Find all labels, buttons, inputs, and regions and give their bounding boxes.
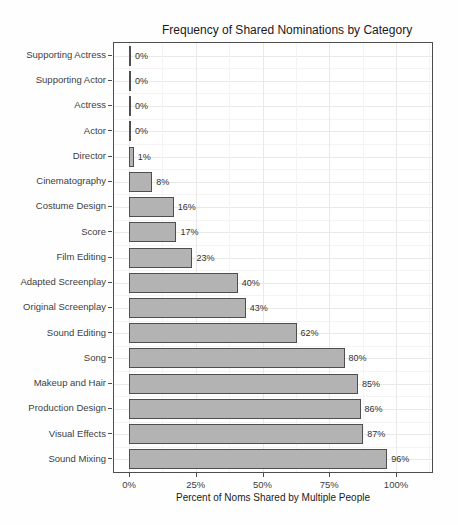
y-tick (108, 357, 112, 358)
y-tick (108, 80, 112, 81)
category-label: Sound Mixing (48, 446, 106, 471)
x-tick (196, 473, 197, 477)
category-label: Sound Editing (47, 320, 106, 345)
bar (129, 298, 246, 318)
category-label: Makeup and Hair (34, 370, 106, 395)
category-label: Costume Design (36, 193, 106, 218)
bar-value-label: 0% (135, 46, 148, 66)
bar (129, 323, 297, 343)
x-tick (129, 473, 130, 477)
bar (129, 96, 131, 116)
bar (129, 374, 358, 394)
chart-title: Frequency of Shared Nominations by Categ… (162, 23, 412, 37)
category-label: Supporting Actress (26, 42, 106, 67)
category-label: Score (81, 219, 106, 244)
x-tick (263, 473, 264, 477)
bar (129, 121, 131, 141)
bar (129, 424, 363, 444)
bar-value-label: 17% (180, 222, 198, 242)
y-tick (108, 383, 112, 384)
chart-figure: Frequency of Shared Nominations by Categ… (0, 0, 458, 525)
bar-value-label: 23% (196, 248, 214, 268)
y-tick (108, 408, 112, 409)
x-tick (396, 473, 397, 477)
y-tick (108, 55, 112, 56)
x-axis-title: Percent of Noms Shared by Multiple Peopl… (113, 492, 433, 503)
x-tick-label: 50% (238, 479, 288, 490)
y-tick (108, 181, 112, 182)
bar (129, 273, 238, 293)
category-label: Director (73, 143, 106, 168)
bar-value-label: 85% (362, 374, 380, 394)
category-label: Song (84, 345, 106, 370)
x-tick (329, 473, 330, 477)
y-tick (108, 231, 112, 232)
category-label: Film Editing (56, 244, 106, 269)
x-tick-label: 25% (171, 479, 221, 490)
category-label: Supporting Actor (36, 67, 106, 92)
y-tick (108, 332, 112, 333)
x-tick-label: 75% (304, 479, 354, 490)
y-tick (108, 130, 112, 131)
bar-value-label: 40% (242, 273, 260, 293)
bar-value-label: 16% (178, 197, 196, 217)
bar-value-label: 87% (367, 424, 385, 444)
bar-value-label: 96% (391, 449, 409, 469)
category-label: Actress (74, 92, 106, 117)
y-tick (108, 458, 112, 459)
bar (129, 222, 176, 242)
bar-value-label: 1% (138, 147, 151, 167)
category-label: Cinematography (36, 168, 106, 193)
bar-value-label: 8% (156, 172, 169, 192)
category-label: Visual Effects (49, 421, 106, 446)
x-tick-label: 100% (371, 479, 421, 490)
gridline-v-minor (429, 43, 430, 472)
bar-value-label: 0% (135, 71, 148, 91)
bar-value-label: 0% (135, 121, 148, 141)
bar (129, 172, 152, 192)
bar (129, 449, 387, 469)
y-tick (108, 282, 112, 283)
bar (129, 71, 131, 91)
bar (129, 399, 361, 419)
bar-value-label: 0% (135, 96, 148, 116)
bar (129, 197, 174, 217)
category-label: Production Design (28, 395, 106, 420)
y-tick (108, 433, 112, 434)
y-tick (108, 156, 112, 157)
bar-value-label: 86% (365, 399, 383, 419)
y-tick (108, 257, 112, 258)
bar-value-label: 43% (250, 298, 268, 318)
bar (129, 147, 134, 167)
category-label: Actor (84, 118, 106, 143)
y-tick (108, 206, 112, 207)
y-tick (108, 307, 112, 308)
plot-panel: 0%0%0%0%1%8%16%17%23%40%43%62%80%85%86%8… (113, 42, 433, 473)
y-tick (108, 105, 112, 106)
bar-value-label: 62% (301, 323, 319, 343)
category-label: Adapted Screenplay (20, 269, 106, 294)
bar (129, 348, 345, 368)
category-label: Original Screenplay (23, 294, 106, 319)
x-tick-label: 0% (104, 479, 154, 490)
bar (129, 46, 131, 66)
bar (129, 248, 192, 268)
gridline-v-major (396, 43, 397, 472)
bar-value-label: 80% (349, 348, 367, 368)
gridline-v-minor (363, 43, 364, 472)
